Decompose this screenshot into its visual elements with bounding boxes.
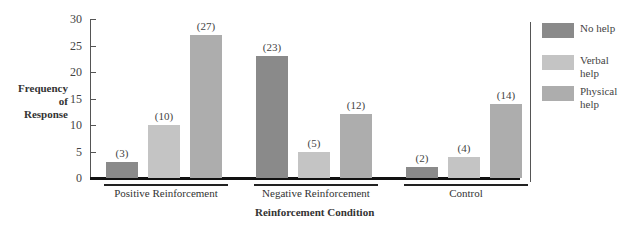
y-tick-label: 10 <box>62 118 82 133</box>
bar <box>490 104 522 178</box>
data-label: (12) <box>336 99 376 111</box>
y-axis-label-line: Response <box>8 108 68 121</box>
category-bracket <box>404 184 528 186</box>
legend-swatch <box>542 55 574 70</box>
legend-swatch <box>542 23 574 38</box>
data-label: (2) <box>402 152 442 164</box>
data-label: (23) <box>252 41 292 53</box>
legend-swatch <box>542 86 574 101</box>
data-label: (5) <box>294 137 334 149</box>
data-label: (3) <box>102 147 142 159</box>
x-axis-label: Reinforcement Condition <box>255 206 374 218</box>
legend-label: No help <box>580 22 635 35</box>
bar <box>406 167 438 178</box>
y-tick-label: 5 <box>62 145 82 160</box>
y-axis-label-line: of <box>8 95 68 108</box>
category-bracket <box>254 184 378 186</box>
data-label: (14) <box>486 89 526 101</box>
y-tick-label: 0 <box>62 171 82 186</box>
category-label: Positive Reinforcement <box>104 187 228 199</box>
y-axis-label: Frequency of Response <box>8 82 68 121</box>
category-label: Negative Reinforcement <box>254 187 378 199</box>
bar <box>298 152 330 179</box>
bar <box>106 162 138 178</box>
y-tick-label: 20 <box>62 65 82 80</box>
data-label: (10) <box>144 110 184 122</box>
y-tick-label: 30 <box>62 12 82 27</box>
bar <box>190 35 222 178</box>
bar <box>256 56 288 178</box>
bar <box>340 114 372 178</box>
bar <box>448 157 480 178</box>
y-axis-label-line: Frequency <box>8 82 68 95</box>
y-tick-label: 15 <box>62 92 82 107</box>
category-label: Control <box>404 187 528 199</box>
y-tick-label: 25 <box>62 39 82 54</box>
data-label: (4) <box>444 142 484 154</box>
data-label: (27) <box>186 20 226 32</box>
legend-divider <box>530 22 531 182</box>
legend-label: Verbalhelp <box>580 54 635 80</box>
category-bracket <box>104 184 228 186</box>
y-axis-line <box>90 19 91 179</box>
legend-label: Physicalhelp <box>580 85 635 111</box>
bar <box>148 125 180 178</box>
